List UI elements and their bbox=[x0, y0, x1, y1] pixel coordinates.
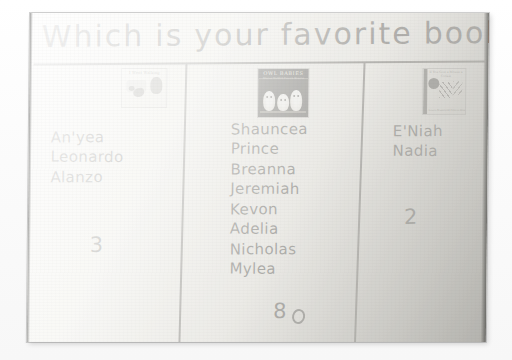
owl-icon bbox=[290, 90, 302, 111]
list-item: Nadia bbox=[393, 141, 489, 161]
title-word-3: your bbox=[194, 17, 270, 53]
picture-book-cover: If You Give a Mouse a Cookie Laura Numer… bbox=[423, 69, 465, 114]
branch-illustration-icon bbox=[260, 111, 306, 113]
chart-title: Whichisyourfavoritebook? bbox=[42, 15, 482, 54]
title-word-1: Which bbox=[42, 18, 145, 54]
chart-column-owl-babies: OWL BABIES Martin Waddell Patrick Benson… bbox=[187, 65, 362, 342]
title-word-2: is bbox=[155, 18, 183, 53]
cover-credit-2: Martin Waddell Patrick Benson bbox=[258, 77, 308, 80]
figure-illustration-icon bbox=[439, 82, 452, 98]
cover-slot-2: OWL BABIES Martin Waddell Patrick Benson bbox=[189, 69, 369, 117]
chart-column-i-went-walking: I Went Walking An'yea Leonardo Alanzo 3 bbox=[33, 65, 186, 342]
list-item: E'Niah bbox=[393, 121, 489, 142]
vote-total-2: 8 bbox=[273, 299, 287, 323]
vote-name-list-1: An'yea Leonardo Alanzo bbox=[34, 127, 201, 187]
chart-paper: Whichisyourfavoritebook? I Went Walking … bbox=[27, 13, 489, 342]
duck-illustration-icon bbox=[133, 87, 145, 97]
child-illustration-icon bbox=[150, 77, 162, 94]
cover-slot-3: If You Give a Mouse a Cookie Laura Numer… bbox=[367, 69, 489, 114]
cover-spine bbox=[423, 69, 427, 114]
vote-total-3: 2 bbox=[404, 205, 417, 229]
title-word-5: book bbox=[424, 15, 489, 51]
list-item: An'yea bbox=[51, 126, 201, 147]
list-item: Alanzo bbox=[50, 167, 200, 188]
cover-title-2: OWL BABIES bbox=[258, 70, 308, 76]
list-item: Leonardo bbox=[50, 147, 200, 168]
owl-icon bbox=[263, 91, 275, 111]
vote-total-1: 3 bbox=[90, 233, 104, 257]
chart-column-picture-book: If You Give a Mouse a Cookie Laura Numer… bbox=[365, 65, 485, 342]
circle-illustration-icon bbox=[428, 78, 439, 89]
title-word-4: favorite bbox=[281, 16, 413, 52]
owl-icon bbox=[277, 94, 289, 111]
vote-name-list-3: E'Niah Nadia bbox=[367, 121, 489, 161]
cover-title-1: I Went Walking bbox=[124, 70, 165, 75]
figure-illustration-icon bbox=[453, 81, 462, 95]
photo-of-classroom-chart: Whichisyourfavoritebook? I Went Walking … bbox=[0, 0, 512, 360]
i-went-walking-cover: I Went Walking bbox=[122, 69, 166, 107]
owl-babies-cover: OWL BABIES Martin Waddell Patrick Benson bbox=[258, 69, 308, 117]
cover-credit-3: Laura Numeroff Felicia Bond bbox=[429, 109, 463, 112]
